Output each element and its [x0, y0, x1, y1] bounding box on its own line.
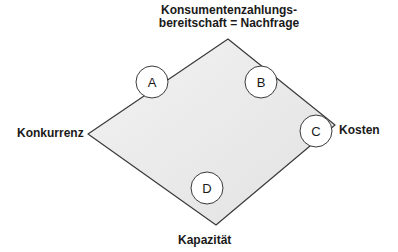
left-label: Konkurrenz [17, 127, 84, 140]
marker-b: B [245, 66, 277, 98]
marker-a-label: A [148, 75, 157, 90]
marker-d: D [191, 172, 223, 204]
bottom-label: Kapazität [178, 234, 231, 247]
marker-d-label: D [202, 181, 211, 196]
marker-c-label: C [311, 124, 320, 139]
top-label: Konsumentenzahlungs- bereitschaft = Nach… [0, 4, 398, 30]
top-label-line2: bereitschaft = Nachfrage [0, 17, 398, 30]
marker-b-label: B [257, 75, 266, 90]
marker-c: C [300, 115, 332, 147]
marker-a: A [136, 66, 168, 98]
right-label: Kosten [339, 124, 380, 137]
